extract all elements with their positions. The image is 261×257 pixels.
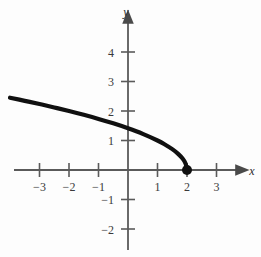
y-tick-label-neg2: −2 xyxy=(101,223,114,237)
x-tick-label-3: 3 xyxy=(214,180,220,194)
y-tick-label-neg1: −1 xyxy=(101,193,114,207)
y-tick-label-2: 2 xyxy=(108,105,114,119)
y-tick-label-1: 1 xyxy=(108,134,114,148)
y-axis-label: y xyxy=(122,5,129,19)
x-tick-label-neg2: −2 xyxy=(63,180,76,194)
endpoint-dot xyxy=(182,165,192,175)
coordinate-plane: −3 −2 −1 1 2 3 4 3 2 1 −1 −2 y x xyxy=(0,0,261,257)
x-tick-label-2: 2 xyxy=(184,180,190,194)
function-curve xyxy=(10,98,187,170)
y-tick-label-3: 3 xyxy=(108,75,114,89)
graph-figure: −3 −2 −1 1 2 3 4 3 2 1 −1 −2 y x xyxy=(0,0,261,257)
x-axis-tick-labels: −3 −2 −1 1 2 3 xyxy=(33,180,219,194)
x-axis-label: x xyxy=(248,164,255,178)
y-axis-tick-labels: 4 3 2 1 −1 −2 xyxy=(101,46,114,237)
x-tick-label-neg3: −3 xyxy=(33,180,46,194)
y-tick-label-4: 4 xyxy=(108,46,114,60)
x-tick-label-neg1: −1 xyxy=(92,180,105,194)
x-tick-label-1: 1 xyxy=(155,180,161,194)
